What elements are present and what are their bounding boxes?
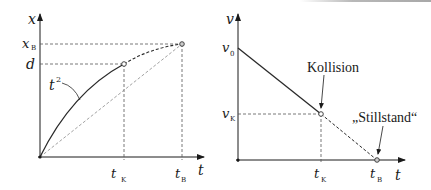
right-y-axis-label: v	[226, 11, 234, 27]
diagram-canvas: x t x B d t K t B t 2 v t v 0 v K t K t	[0, 0, 431, 190]
point-collision-v	[319, 112, 324, 117]
tick-label-vk: v	[222, 106, 230, 121]
left-y-axis-label: x	[28, 11, 36, 27]
tick-label-tk-right: t	[314, 166, 320, 181]
right-chart-velocity-time: v t v 0 v K t K t B Kollision „Stillstan…	[222, 11, 417, 184]
standstill-annotation: „Stillstand“	[352, 110, 417, 125]
curve-label-exponent: 2	[56, 75, 61, 84]
right-x-axis-label: t	[395, 167, 401, 183]
tick-label-tb-right: t	[370, 166, 376, 181]
tick-label-v0: v	[222, 40, 230, 55]
position-curve-dashed	[124, 44, 182, 64]
collision-annotation: Kollision	[307, 60, 359, 75]
point-collision	[122, 62, 127, 67]
tick-label-tk: t	[111, 166, 117, 181]
standstill-arrow	[378, 126, 383, 154]
secant-line	[40, 44, 182, 157]
tick-label-vk-sub: K	[230, 115, 236, 123]
curve-label-t: t	[49, 77, 55, 93]
tick-label-tb-sub: B	[181, 176, 186, 184]
point-stop	[180, 42, 185, 47]
point-standstill	[375, 158, 380, 163]
origin-dot	[38, 155, 41, 158]
tick-label-v0-sub: 0	[230, 50, 234, 58]
tick-label-tb-right-sub: B	[377, 176, 382, 184]
left-x-axis-label: t	[198, 162, 204, 178]
tick-label-d: d	[26, 56, 35, 72]
collision-arrow	[321, 75, 324, 108]
origin-dot-right	[236, 158, 239, 161]
tick-label-xb: x	[22, 36, 30, 51]
velocity-line-solid	[238, 48, 321, 114]
tick-label-xb-sub: B	[31, 44, 36, 52]
left-chart-position-time: x t x B d t K t B t 2	[22, 11, 204, 184]
curve-label-leader	[62, 83, 80, 100]
tick-label-tk-right-sub: K	[321, 176, 327, 184]
tick-label-tk-sub: K	[121, 176, 127, 184]
